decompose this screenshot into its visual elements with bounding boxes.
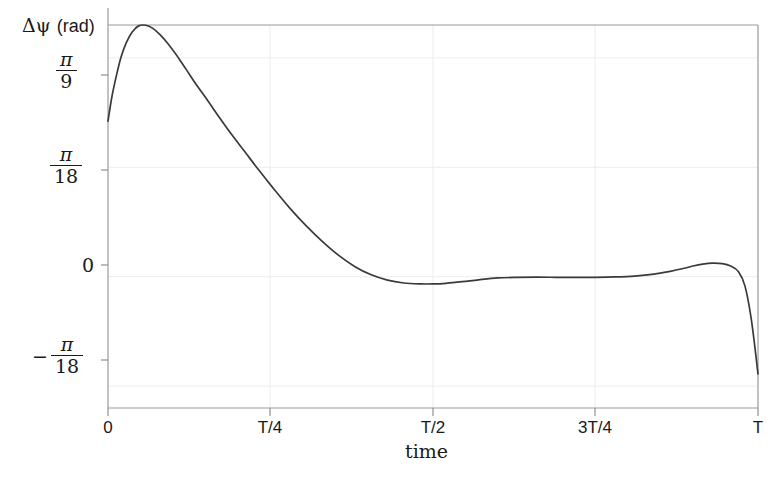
y-tick-label-pi-over-9: π 9 bbox=[56, 50, 77, 91]
y-tick-numerator: π bbox=[50, 145, 82, 165]
y-tick-denominator: 18 bbox=[51, 355, 83, 376]
y-axis-ticks bbox=[101, 75, 108, 360]
x-tick-label-t: T bbox=[748, 418, 768, 438]
x-tick-label-t-over-4: T/4 bbox=[248, 418, 292, 438]
y-axis-title-unit: (rad) bbox=[57, 16, 95, 36]
y-tick-label-pi-over-18: π 18 bbox=[50, 145, 82, 186]
line-chart-svg bbox=[0, 0, 782, 477]
y-axis-title-symbol: Δψ bbox=[22, 14, 51, 36]
x-axis-ticks bbox=[108, 408, 758, 416]
gridlines-vertical bbox=[270, 25, 595, 408]
x-tick-label-t-over-2: T/2 bbox=[411, 418, 455, 438]
y-tick-denominator: 18 bbox=[50, 165, 82, 186]
chart-page: Δψ (rad) π 9 π 18 0 − π 18 0 T/4 T/2 3T/… bbox=[0, 0, 782, 477]
minus-sign: − bbox=[32, 347, 48, 366]
x-axis-title: time bbox=[405, 440, 448, 462]
y-tick-numerator: π bbox=[51, 335, 83, 355]
y-tick-fraction: π 18 bbox=[51, 335, 83, 376]
y-tick-label-negative-pi-over-18: − π 18 bbox=[32, 335, 83, 376]
y-tick-numerator: π bbox=[56, 50, 77, 70]
y-tick-denominator: 9 bbox=[56, 70, 77, 91]
x-tick-label-3t-over-4: 3T/4 bbox=[569, 418, 621, 438]
y-tick-label-zero: 0 bbox=[82, 254, 94, 276]
plot-area-wrapper: Δψ (rad) π 9 π 18 0 − π 18 0 T/4 T/2 3T/… bbox=[0, 0, 782, 477]
y-axis-title: Δψ (rad) bbox=[22, 14, 95, 37]
x-tick-label-0: 0 bbox=[98, 418, 118, 438]
